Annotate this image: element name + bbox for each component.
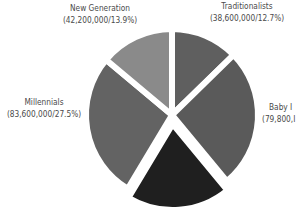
label-new-generation-value: (42,200,000/13.9%) [53, 14, 147, 26]
label-new-generation-name: New Generation [53, 2, 147, 14]
label-baby-boomers: Baby I (79,800,I [262, 101, 296, 125]
label-millennials-name: Millennials [0, 96, 91, 108]
label-traditionalists-value: (38,600,000/12.7%) [200, 12, 294, 24]
label-new-generation: New Generation (42,200,000/13.9%) [53, 2, 147, 26]
label-traditionalists-name: Traditionalists [200, 0, 294, 12]
label-millennials: Millennials (83,600,000/27.5%) [0, 96, 91, 120]
label-baby-boomers-value: (79,800,I [262, 113, 296, 125]
label-millennials-value: (83,600,000/27.5%) [0, 108, 91, 120]
label-traditionalists: Traditionalists (38,600,000/12.7%) [200, 0, 294, 24]
label-baby-boomers-name: Baby I [262, 101, 296, 113]
